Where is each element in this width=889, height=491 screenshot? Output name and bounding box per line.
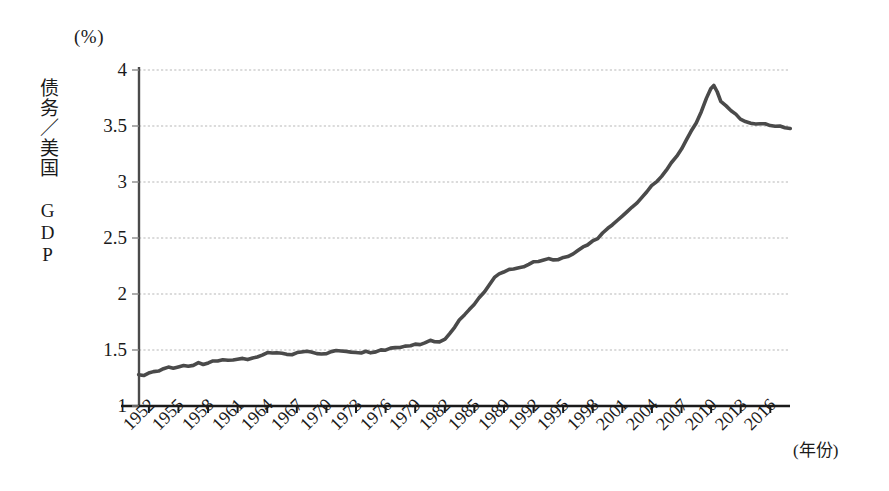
- y-tick-label: 4: [81, 59, 127, 81]
- chart-figure: (%) 债务／美国 GDP 11.522.533.54 195219551958…: [0, 0, 889, 491]
- y-tick-label: 2.5: [81, 227, 127, 249]
- y-tick-label: 1.5: [81, 339, 127, 361]
- gridlines: [139, 70, 790, 350]
- y-tick-label: 2: [81, 283, 127, 305]
- axis-lines: [121, 67, 790, 406]
- x-axis-unit-label: (年份): [793, 436, 838, 461]
- data-series-line: [139, 85, 791, 375]
- y-axis-unit-label: (%): [74, 26, 104, 48]
- y-axis-title: 债务／美国 GDP: [26, 78, 58, 266]
- y-tick-label: 3.5: [81, 115, 127, 137]
- y-tick-label: 3: [81, 171, 127, 193]
- y-tick-label: 1: [81, 395, 127, 417]
